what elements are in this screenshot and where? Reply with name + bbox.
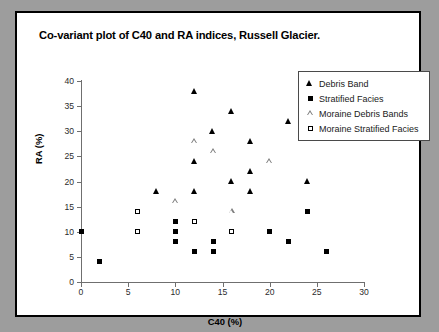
data-point xyxy=(229,229,234,234)
data-point xyxy=(191,138,197,143)
data-point xyxy=(209,128,215,134)
legend-label: Moraine Debris Bands xyxy=(319,109,408,119)
y-tick-label: 10 xyxy=(52,227,74,237)
data-point xyxy=(173,219,178,224)
y-tick-label: 0 xyxy=(52,277,74,287)
x-tick-label: 0 xyxy=(69,287,93,297)
legend-marker-icon xyxy=(304,78,316,90)
data-point xyxy=(192,249,197,254)
data-point xyxy=(267,229,272,234)
y-tick xyxy=(77,207,81,208)
screenshot-background: Co-variant plot of C40 and RA indices, R… xyxy=(0,0,439,332)
data-point xyxy=(211,239,216,244)
y-tick-label: 20 xyxy=(52,177,74,187)
x-tick-label: 20 xyxy=(258,287,282,297)
data-point xyxy=(79,229,84,234)
x-tick-label: 30 xyxy=(352,287,376,297)
x-tick-label: 10 xyxy=(163,287,187,297)
x-tick-label: 5 xyxy=(116,287,140,297)
data-point xyxy=(135,209,140,214)
data-point xyxy=(285,118,291,124)
legend-label: Debris Band xyxy=(319,79,369,89)
y-axis-line xyxy=(81,80,82,283)
y-tick xyxy=(77,106,81,107)
y-tick xyxy=(77,156,81,157)
legend-item-3: Moraine Stratified Facies xyxy=(304,121,424,136)
x-tick-label: 15 xyxy=(211,287,235,297)
data-point xyxy=(228,108,234,114)
legend-marker-icon xyxy=(304,123,316,135)
y-tick-label: 35 xyxy=(52,101,74,111)
chart-panel: Co-variant plot of C40 and RA indices, R… xyxy=(15,11,421,317)
data-point xyxy=(286,239,291,244)
chart-legend: Debris BandStratified FaciesMoraine Debr… xyxy=(298,71,430,141)
y-tick xyxy=(77,257,81,258)
y-tick-label: 25 xyxy=(52,151,74,161)
data-point xyxy=(266,158,272,163)
y-tick xyxy=(77,81,81,82)
y-tick xyxy=(77,182,81,183)
data-point xyxy=(229,208,235,213)
chart-title: Co-variant plot of C40 and RA indices, R… xyxy=(39,29,320,41)
data-point xyxy=(305,209,310,214)
data-point xyxy=(191,188,197,194)
data-point xyxy=(304,178,310,184)
legend-item-2: Moraine Debris Bands xyxy=(304,106,424,121)
data-point xyxy=(173,229,178,234)
x-axis-label: C40 (%) xyxy=(66,316,384,327)
legend-marker-icon xyxy=(304,93,316,105)
y-tick-label: 15 xyxy=(52,202,74,212)
data-point xyxy=(211,249,216,254)
data-point xyxy=(324,249,329,254)
legend-label: Moraine Stratified Facies xyxy=(319,124,419,134)
data-point xyxy=(153,188,159,194)
data-point xyxy=(135,229,140,234)
x-tick-label: 25 xyxy=(305,287,329,297)
data-point xyxy=(97,259,102,264)
data-point xyxy=(247,138,253,144)
data-point xyxy=(192,219,197,224)
y-tick-label: 40 xyxy=(52,76,74,86)
data-point xyxy=(228,178,234,184)
y-tick xyxy=(77,131,81,132)
data-point xyxy=(247,188,253,194)
y-tick-label: 30 xyxy=(52,126,74,136)
data-point xyxy=(172,198,178,203)
y-axis-label: RA (%) xyxy=(33,134,44,164)
data-point xyxy=(210,148,216,153)
data-point xyxy=(191,88,197,94)
legend-label: Stratified Facies xyxy=(319,94,384,104)
data-point xyxy=(247,168,253,174)
y-tick-label: 5 xyxy=(52,252,74,262)
legend-item-1: Stratified Facies xyxy=(304,91,424,106)
legend-marker-icon xyxy=(304,108,316,120)
legend-item-0: Debris Band xyxy=(304,76,424,91)
data-point xyxy=(173,239,178,244)
data-point xyxy=(191,158,197,164)
